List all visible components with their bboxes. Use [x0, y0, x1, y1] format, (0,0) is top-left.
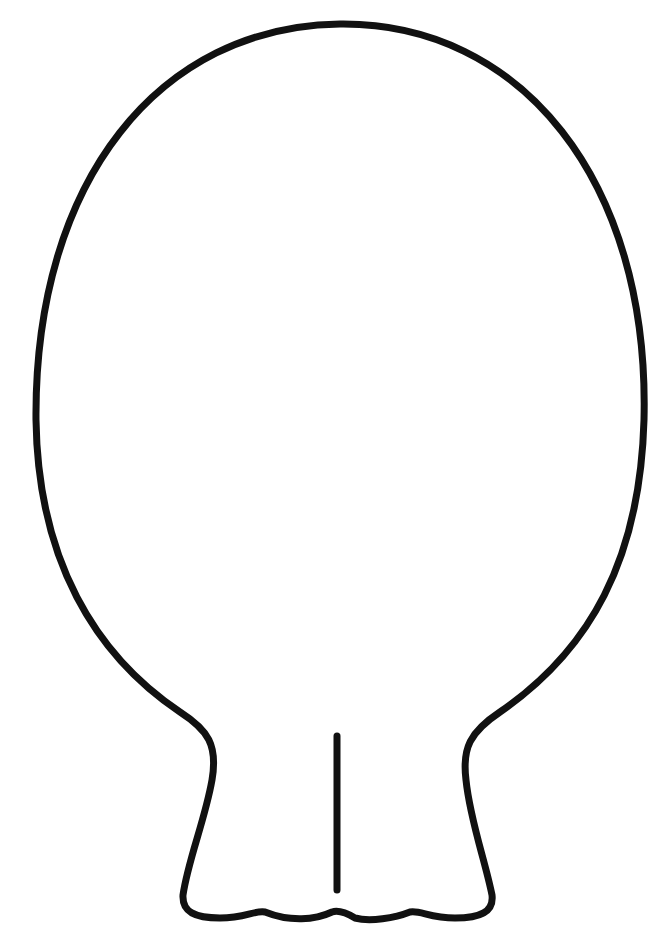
- balloon-drawing: [0, 0, 669, 944]
